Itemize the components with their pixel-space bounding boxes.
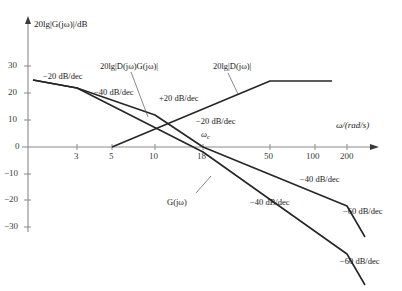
x-tick-50: 50 bbox=[264, 152, 273, 161]
x-tick-5: 5 bbox=[109, 152, 114, 161]
x-tick-200: 200 bbox=[340, 152, 354, 161]
annotation-d-label: 20lg|D(jω)| bbox=[213, 62, 251, 71]
y-tick-neg20: −20 bbox=[4, 195, 18, 204]
bode-plot-canvas bbox=[0, 0, 402, 291]
annotation-g-slope-40: −40 dB/dec bbox=[94, 88, 134, 97]
y-tick-30: 30 bbox=[8, 61, 17, 70]
y-tick-neg10: −10 bbox=[4, 169, 18, 178]
x-tick-10: 10 bbox=[149, 152, 158, 161]
annotation-dg-slope-60: −60 dB/dec bbox=[343, 207, 383, 216]
curve-d-magnitude bbox=[112, 81, 332, 147]
annotation-dg-slope-20: −20 dB/dec bbox=[196, 117, 236, 126]
leader-line-d-label bbox=[228, 73, 238, 94]
y-tick-neg30: −30 bbox=[4, 222, 18, 231]
x-tick-3: 3 bbox=[74, 152, 79, 161]
y-tick-20: 20 bbox=[8, 88, 17, 97]
y-axis-title: 20lg|G(jω)|/dB bbox=[34, 20, 88, 29]
x-tick-100: 100 bbox=[306, 152, 320, 161]
x-axis-title: ω/(rad/s) bbox=[336, 121, 369, 130]
annotation-dg-label: 20lg|D(jω)G(jω)| bbox=[100, 62, 158, 71]
y-tick-0: 0 bbox=[15, 142, 20, 151]
annotation-g-slope-60: −60 dB/dec bbox=[340, 257, 380, 266]
leader-line-g-label bbox=[196, 176, 211, 193]
annotation-g-slope-40-lower: −40 dB/dec bbox=[250, 198, 290, 207]
omega-c-subscript: c bbox=[207, 133, 210, 140]
annotation-d-slope-up: +20 dB/dec bbox=[159, 94, 199, 103]
label-omega-c: ωc bbox=[201, 130, 210, 141]
y-tick-10: 10 bbox=[8, 115, 17, 124]
annotation-g-slope-20: −20 dB/dec bbox=[43, 72, 83, 81]
x-tick-18: 18 bbox=[197, 152, 206, 161]
annotation-g-label: G(jω) bbox=[167, 198, 187, 207]
y-axis bbox=[24, 16, 31, 232]
annotation-dg-slope-40: −40 dB/dec bbox=[300, 175, 340, 184]
